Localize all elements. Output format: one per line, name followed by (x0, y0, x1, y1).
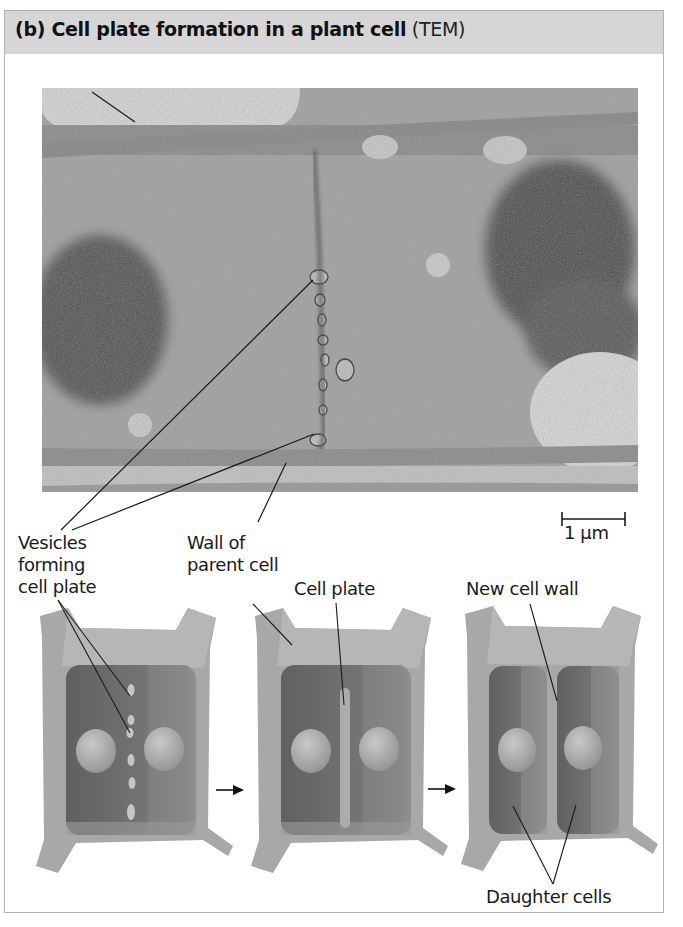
stage-vesicles-cell (36, 608, 233, 873)
right-arrow-icon (216, 785, 244, 795)
cell-division-diagram (0, 0, 683, 927)
right-arrow-icon (428, 784, 456, 794)
stage-new-cell-wall-cell (461, 606, 658, 871)
stage-cell-plate-cell (251, 608, 448, 873)
